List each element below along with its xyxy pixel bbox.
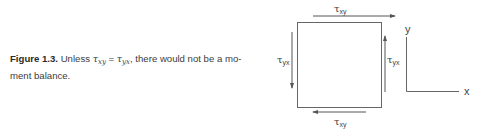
- bottom-label: τxy: [334, 116, 347, 129]
- top-label: τxy: [334, 3, 347, 16]
- xy-axes-icon: [407, 37, 460, 92]
- axis-y-label: y: [405, 23, 411, 35]
- left-label: τyx: [277, 54, 290, 67]
- right-label: τyx: [387, 54, 400, 67]
- element-square: [298, 23, 382, 108]
- shear-stress-diagram: τxy τxy τyx τyx y x: [0, 0, 483, 135]
- axis-x-label: x: [464, 85, 470, 97]
